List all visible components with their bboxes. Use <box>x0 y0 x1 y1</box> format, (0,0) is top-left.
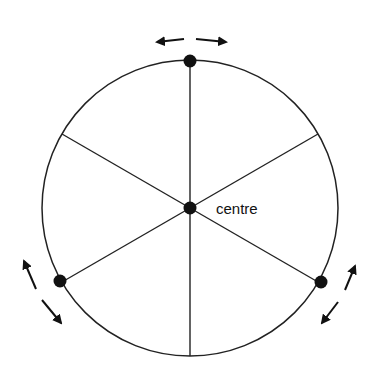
arrow-lower-left-up-icon <box>24 261 36 289</box>
arrow-lower-right-up-icon <box>345 266 355 290</box>
spoke-upper-right <box>190 134 318 208</box>
rim-dot-lower-left <box>54 275 67 288</box>
rim-dot-top <box>184 55 197 68</box>
arrow-top-right-icon <box>196 39 226 42</box>
spoke-lower-right <box>190 208 318 282</box>
spoke-upper-left <box>62 134 190 208</box>
arrow-top-left-icon <box>157 39 184 42</box>
rim-dot-lower-right <box>315 276 328 289</box>
arrow-lower-left-down-icon <box>42 300 61 323</box>
centre-label: centre <box>216 200 258 217</box>
centre-dot <box>184 202 197 215</box>
arrow-lower-right-down-icon <box>322 302 338 323</box>
wheel-diagram: centre <box>0 0 373 374</box>
spoke-lower-left <box>62 208 190 282</box>
